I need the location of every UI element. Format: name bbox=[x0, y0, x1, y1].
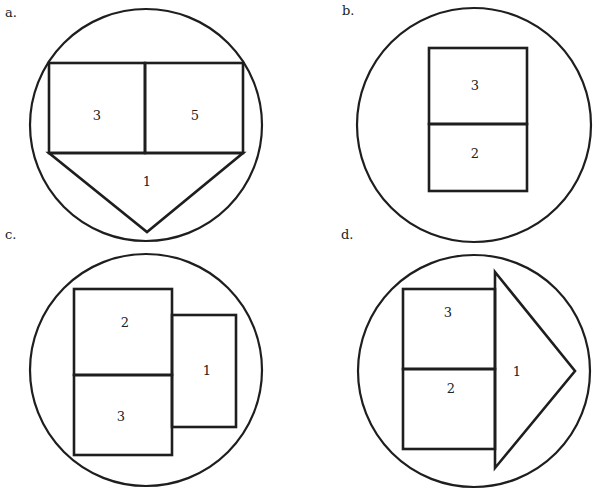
panel-label-b: b. bbox=[342, 3, 354, 18]
panel-a-right-value: 5 bbox=[191, 108, 199, 123]
panel-label-d: d. bbox=[341, 227, 353, 242]
panel-b: b. 3 2 bbox=[342, 3, 591, 242]
panel-label-a: a. bbox=[5, 5, 17, 20]
panel-b-top-value: 3 bbox=[471, 78, 479, 93]
panel-d-arrow-triangle bbox=[495, 272, 575, 468]
panel-d-top-value: 3 bbox=[444, 305, 452, 320]
panel-a-triangle-value: 1 bbox=[143, 174, 151, 189]
panel-c-bottom-value: 3 bbox=[117, 409, 125, 424]
panel-label-c: c. bbox=[5, 227, 16, 242]
panel-a-left-value: 3 bbox=[93, 108, 101, 123]
panel-c-side-value: 1 bbox=[203, 363, 211, 378]
panel-c-top-cell bbox=[74, 289, 172, 375]
panel-d: d. 3 2 1 bbox=[341, 227, 590, 487]
panel-c-top-value: 2 bbox=[121, 315, 129, 330]
panel-d-top-cell bbox=[403, 289, 495, 369]
panel-b-bottom-value: 2 bbox=[471, 146, 479, 161]
panel-a: a. 3 5 1 bbox=[5, 5, 262, 241]
panel-c: c. 2 3 1 bbox=[5, 227, 262, 486]
panel-d-triangle-value: 1 bbox=[513, 364, 521, 379]
diagram-canvas: a. 3 5 1 b. 3 2 c. 2 3 1 d. 3 2 1 bbox=[0, 0, 594, 498]
panel-d-bottom-value: 2 bbox=[447, 381, 455, 396]
